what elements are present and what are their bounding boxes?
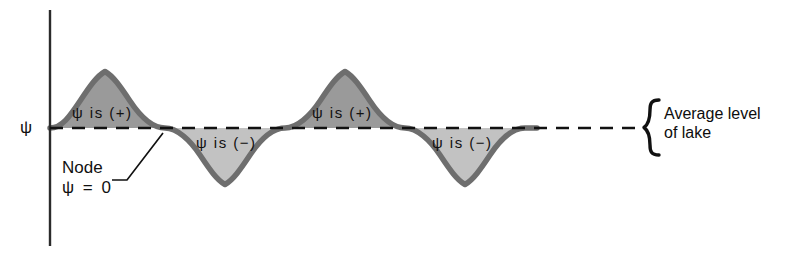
psi-axis-label: ψ: [20, 118, 32, 138]
region-label-positive-2: ψ is (+): [312, 104, 373, 121]
node-annotation: Node ψ = 0: [62, 158, 113, 198]
average-level-line1: Average level: [664, 104, 761, 123]
wave-figure: ψ ψ is (+) ψ is (−) ψ is (+) ψ is (−) No…: [0, 0, 792, 259]
region-label-positive-1: ψ is (+): [72, 104, 133, 121]
region-label-negative-2: ψ is (−): [432, 134, 493, 151]
average-level-line2: of lake: [664, 123, 761, 142]
average-level-annotation: Average level of lake: [664, 104, 761, 142]
node-leader-line: [112, 133, 163, 180]
average-level-brace: [644, 100, 659, 155]
region-label-negative-1: ψ is (−): [196, 134, 257, 151]
node-annotation-line2: ψ = 0: [62, 178, 113, 198]
node-annotation-line1: Node: [62, 158, 113, 178]
